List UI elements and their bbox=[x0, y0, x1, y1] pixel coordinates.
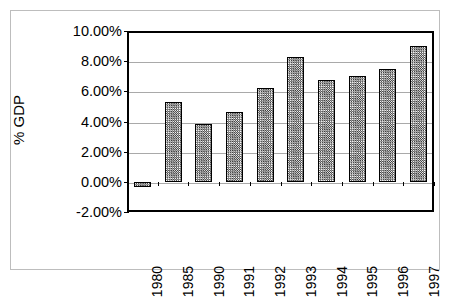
y-axis-tick-label: 2.00% bbox=[81, 144, 122, 160]
bar-1991 bbox=[226, 112, 243, 181]
y-axis-tick-labels: 10.00%8.00%6.00%4.00%2.00%0.00%-2.00% bbox=[34, 0, 122, 281]
x-axis-tick-mark bbox=[250, 182, 251, 186]
bar-1994 bbox=[318, 80, 335, 182]
x-axis-tick-label: 1990 bbox=[211, 266, 227, 297]
x-axis-tick-mark bbox=[188, 182, 189, 186]
y-axis-tick-label: 6.00% bbox=[81, 83, 122, 99]
x-axis-tick-label: 1994 bbox=[334, 266, 350, 297]
x-axis-tick-label: 1996 bbox=[395, 266, 411, 297]
x-axis-tick-mark bbox=[434, 182, 435, 186]
x-axis-tick-mark bbox=[311, 182, 312, 186]
y-axis-tick-label: 0.00% bbox=[81, 174, 122, 190]
bar-1990 bbox=[195, 124, 212, 182]
y-axis-tick-mark bbox=[124, 212, 129, 213]
y-axis-tick-label: 8.00% bbox=[81, 53, 122, 69]
x-axis-tick-label: 1992 bbox=[272, 266, 288, 297]
x-axis-tick-mark bbox=[373, 182, 374, 186]
x-axis-tick-mark bbox=[342, 182, 343, 186]
x-axis-tick-label: 1995 bbox=[364, 266, 380, 297]
x-axis-tick-labels: 1980198519901991199219931994199519961997 bbox=[127, 214, 434, 272]
bars-group bbox=[127, 31, 434, 212]
bar-1992 bbox=[257, 88, 274, 182]
x-axis-tick-mark bbox=[158, 182, 159, 186]
y-axis-tick-label: -2.00% bbox=[76, 204, 122, 220]
x-axis-tick-mark bbox=[281, 182, 282, 186]
x-axis-tick-label: 1997 bbox=[426, 266, 442, 297]
bar-1995 bbox=[349, 76, 366, 182]
y-axis-tick-label: 10.00% bbox=[73, 23, 122, 39]
x-axis-tick-label: 1980 bbox=[149, 266, 165, 297]
x-axis-tick-label: 1993 bbox=[303, 266, 319, 297]
y-axis-tick-label: 4.00% bbox=[81, 114, 122, 130]
y-axis-title: % GDP bbox=[10, 95, 27, 145]
bar-1997 bbox=[410, 46, 427, 182]
bar-1996 bbox=[379, 69, 396, 182]
x-axis-tick-label: 1991 bbox=[241, 266, 257, 297]
bar-1993 bbox=[287, 57, 304, 181]
x-axis-tick-mark bbox=[219, 182, 220, 186]
x-axis-tick-mark bbox=[403, 182, 404, 186]
bar-1980 bbox=[134, 182, 151, 187]
x-axis-tick-label: 1985 bbox=[180, 266, 196, 297]
bar-1985 bbox=[165, 102, 182, 182]
